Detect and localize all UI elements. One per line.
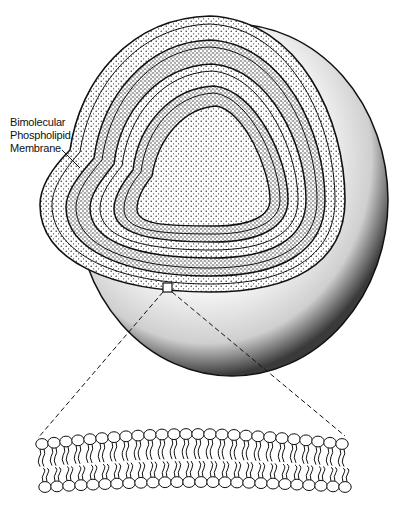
- lipid-head-outer: [300, 435, 312, 446]
- lipid-head-outer: [120, 431, 132, 442]
- lipid-head-inner: [231, 477, 243, 488]
- lipid-head-inner: [75, 480, 87, 491]
- lipid-head-inner: [219, 477, 231, 488]
- lipid-head-outer: [84, 434, 96, 445]
- bilayer-cross-section: [36, 429, 351, 497]
- lipid-head-inner: [99, 479, 111, 490]
- lipid-head-outer: [324, 437, 336, 448]
- lipid-head-inner: [123, 478, 135, 489]
- lipid-tail: [346, 469, 349, 483]
- lipid-head-inner: [147, 477, 159, 488]
- lipid-head-inner: [51, 481, 63, 492]
- lipid-head-outer: [168, 429, 180, 440]
- lipid-head-outer: [228, 430, 240, 441]
- lipid-head-outer: [192, 429, 204, 440]
- liposome-diagram: [0, 0, 402, 510]
- lipid-head-outer: [312, 436, 324, 447]
- lipid-head-outer: [144, 430, 156, 441]
- label-line-2: Phospholipid: [10, 129, 71, 142]
- lipid-head-outer: [252, 431, 264, 442]
- label-line-3: Membrane: [10, 142, 71, 155]
- lipid-head-inner: [339, 482, 351, 493]
- label-line-1: Bimolecular: [10, 116, 71, 129]
- membrane-label: Bimolecular Phospholipid Membrane: [10, 116, 71, 155]
- lipid-head-outer: [108, 432, 120, 443]
- lipid-head-outer: [48, 437, 60, 448]
- lipid-head-outer: [156, 429, 168, 440]
- lipid-head-inner: [207, 477, 219, 488]
- lipid-head-inner: [303, 480, 315, 491]
- lipid-head-inner: [111, 478, 123, 489]
- lipid-head-inner: [183, 477, 195, 488]
- lipid-head-outer: [276, 433, 288, 444]
- lipid-head-inner: [63, 480, 75, 491]
- lipid-head-inner: [159, 477, 171, 488]
- lipid-head-inner: [171, 477, 183, 488]
- lipid-head-inner: [267, 478, 279, 489]
- lipid-head-outer: [288, 434, 300, 445]
- lipid-head-inner: [255, 478, 267, 489]
- lipid-head-inner: [135, 477, 147, 488]
- lipid-head-outer: [60, 436, 72, 447]
- lipid-head-inner: [327, 481, 339, 492]
- lipid-head-outer: [72, 435, 84, 446]
- lipid-head-outer: [216, 429, 228, 440]
- lipid-head-outer: [204, 429, 216, 440]
- lipid-head-outer: [96, 433, 108, 444]
- magnified-region-marker: [163, 283, 172, 292]
- lipid-head-inner: [279, 479, 291, 490]
- lipid-head-outer: [180, 429, 192, 440]
- lipid-head-inner: [87, 479, 99, 490]
- lipid-head-inner: [291, 479, 303, 490]
- lipid-head-outer: [264, 432, 276, 443]
- lipid-head-inner: [195, 477, 207, 488]
- lipid-head-inner: [243, 477, 255, 488]
- lipid-head-outer: [132, 430, 144, 441]
- lipid-head-inner: [315, 480, 327, 491]
- lipid-head-inner: [39, 482, 51, 493]
- lipid-head-outer: [240, 430, 252, 441]
- lipid-head-outer: [36, 439, 48, 450]
- lipid-head-outer: [336, 439, 348, 450]
